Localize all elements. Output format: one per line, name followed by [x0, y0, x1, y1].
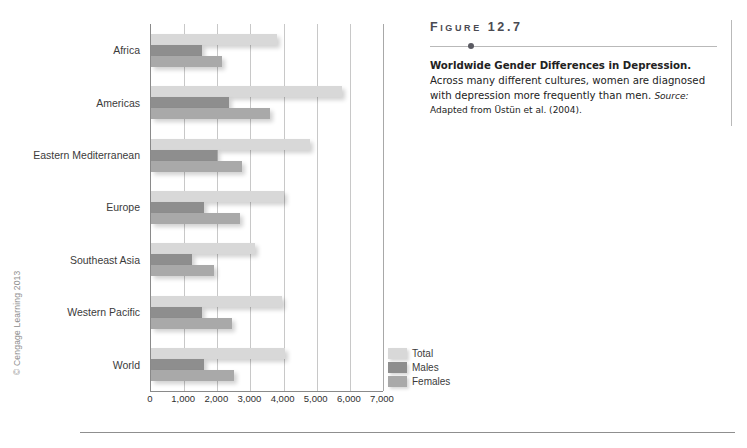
- legend-label: Males: [412, 362, 439, 373]
- category-label: World: [20, 339, 146, 391]
- bar-total: [151, 139, 310, 150]
- figure-divider: [430, 42, 717, 50]
- figure-caption: Worldwide Gender Differences in Depressi…: [430, 59, 717, 118]
- category-axis-labels: AfricaAmericasEastern MediterraneanEurop…: [20, 24, 146, 391]
- bar-females: [151, 265, 214, 276]
- bar-males: [151, 97, 229, 108]
- category-label: Africa: [20, 24, 146, 76]
- bar-group: [151, 181, 383, 233]
- category-label: Western Pacific: [20, 286, 146, 338]
- figure-number: Figure 12.7: [430, 20, 717, 34]
- value-tick-label: 5,000: [304, 393, 328, 404]
- legend-swatch-total: [388, 348, 407, 359]
- figure-panel: Figure 12.7 Worldwide Gender Differences…: [430, 20, 732, 126]
- bar-males: [151, 150, 217, 161]
- bar-chart: AfricaAmericasEastern MediterraneanEurop…: [0, 0, 420, 415]
- legend-swatch-males: [388, 362, 407, 373]
- caption-title: Worldwide Gender Differences in Depressi…: [430, 60, 691, 71]
- bar-group: [151, 286, 383, 338]
- bar-total: [151, 348, 285, 359]
- bar-total: [151, 296, 282, 307]
- legend-label: Females: [412, 376, 450, 387]
- bar-group: [151, 76, 383, 128]
- category-label: Europe: [20, 181, 146, 233]
- legend-item-females: Females: [388, 375, 450, 387]
- bar-total: [151, 86, 342, 97]
- chart-legend: TotalMalesFemales: [388, 347, 450, 387]
- bar-total: [151, 34, 277, 45]
- category-label: Eastern Mediterranean: [20, 129, 146, 181]
- bar-females: [151, 213, 240, 224]
- bar-males: [151, 359, 204, 370]
- value-tick-label: 0: [147, 393, 152, 404]
- bar-group: [151, 234, 383, 286]
- value-tick-label: 3,000: [238, 393, 262, 404]
- bar-total: [151, 243, 255, 254]
- category-label: Americas: [20, 76, 146, 128]
- bar-group: [151, 129, 383, 181]
- bar-group: [151, 24, 383, 76]
- gridline: [383, 24, 384, 391]
- divider-dot-icon: [468, 43, 474, 49]
- bar-females: [151, 108, 270, 119]
- category-label: Southeast Asia: [20, 234, 146, 286]
- value-tick-label: 4,000: [271, 393, 295, 404]
- caption-source-text: Adapted from Üstün et al. (2004).: [430, 105, 582, 115]
- value-tick-label: 6,000: [337, 393, 361, 404]
- bar-females: [151, 56, 222, 67]
- page-bottom-rule: [80, 432, 735, 433]
- bar-males: [151, 202, 204, 213]
- legend-item-males: Males: [388, 361, 450, 373]
- bar-males: [151, 45, 202, 56]
- bar-groups: [151, 24, 383, 391]
- caption-source-label: Source:: [654, 91, 688, 101]
- legend-swatch-females: [388, 376, 407, 387]
- bar-females: [151, 318, 232, 329]
- value-tick-label: 2,000: [204, 393, 228, 404]
- value-axis-ticks: 01,0002,0003,0004,0005,0006,0007,000: [150, 393, 382, 407]
- copyright-notice: © Cengage Learning 2013: [12, 235, 22, 375]
- bar-males: [151, 254, 192, 265]
- bar-females: [151, 370, 234, 381]
- bar-group: [151, 339, 383, 391]
- legend-label: Total: [412, 348, 433, 359]
- plot-area: [150, 24, 383, 392]
- value-tick-label: 1,000: [171, 393, 195, 404]
- bar-females: [151, 161, 242, 172]
- legend-item-total: Total: [388, 347, 450, 359]
- bar-males: [151, 307, 202, 318]
- bar-total: [151, 191, 284, 202]
- value-tick-label: 7,000: [370, 393, 394, 404]
